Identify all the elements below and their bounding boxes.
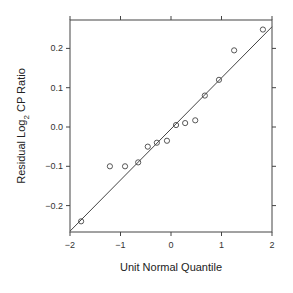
x-tick-label: 1 (219, 240, 224, 250)
y-axis-label: Residual Log2 CP Ratio (15, 68, 31, 184)
data-point (107, 164, 112, 169)
y-tick-label: −0.2 (45, 201, 63, 211)
data-point (260, 27, 265, 32)
qq-plot: −2−1012 −0.2−0.10.00.10.2 Unit Normal Qu… (0, 0, 293, 293)
data-point (183, 120, 188, 125)
data-point (164, 138, 169, 143)
data-point (193, 118, 198, 123)
y-tick-label: 0.0 (50, 122, 63, 132)
y-tick-label: −0.1 (45, 161, 63, 171)
data-point (202, 93, 207, 98)
data-point (145, 144, 150, 149)
data-point (122, 164, 127, 169)
y-axis-ticks: −0.2−0.10.00.10.2 (45, 43, 276, 210)
fit-line (70, 27, 272, 231)
y-tick-label: 0.2 (50, 43, 63, 53)
x-tick-label: −2 (65, 240, 75, 250)
x-tick-label: −1 (115, 240, 125, 250)
x-axis-ticks: −2−1012 (65, 16, 275, 250)
x-axis-label: Unit Normal Quantile (120, 261, 222, 273)
data-point (232, 48, 237, 53)
y-tick-label: 0.1 (50, 83, 63, 93)
x-tick-label: 2 (269, 240, 274, 250)
x-tick-label: 0 (168, 240, 173, 250)
